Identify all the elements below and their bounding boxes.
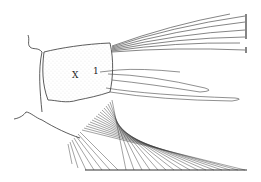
middle-setae bbox=[100, 69, 239, 101]
upper-setae bbox=[112, 14, 246, 53]
label-1: 1 bbox=[93, 67, 99, 76]
label-x: X bbox=[72, 71, 78, 80]
figure-drawing bbox=[0, 0, 261, 182]
lower-fan-setae bbox=[68, 100, 247, 170]
